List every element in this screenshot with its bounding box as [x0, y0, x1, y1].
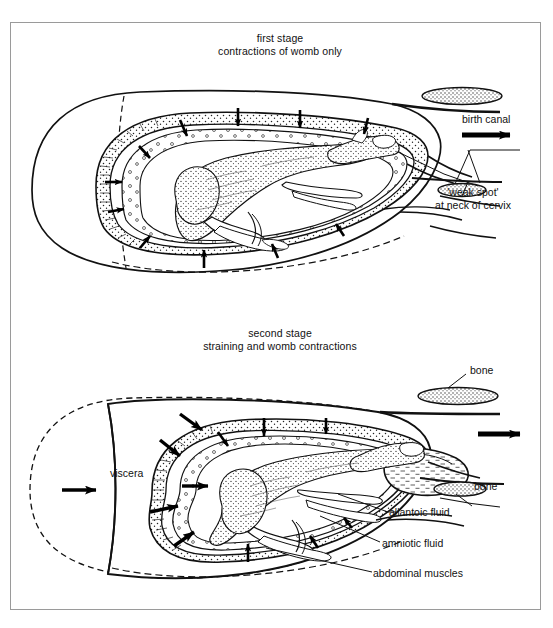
birth-stages-figure: first stage contractions of womb only: [0, 0, 553, 628]
label-bone-top: bone: [470, 364, 493, 377]
p2-bone-top: [418, 388, 498, 405]
label-viscera: viscera: [110, 467, 143, 480]
label-allantoic-fluid: allantoic fluid: [389, 506, 450, 519]
label-amniotic-fluid: amniotic fluid: [382, 537, 443, 550]
second-stage-drawing: [0, 0, 553, 628]
label-abdominal-muscles: abdominal muscles: [373, 567, 463, 580]
label-bone-bottom: bone: [474, 480, 497, 493]
